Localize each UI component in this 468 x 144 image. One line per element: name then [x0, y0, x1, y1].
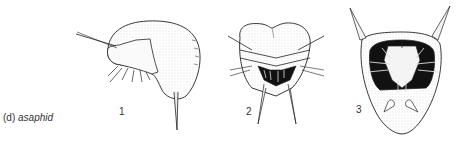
caption-taxon: asaphid — [18, 112, 53, 123]
figure-3-number: 3 — [356, 104, 362, 115]
figure-3-ventral-view — [320, 0, 468, 144]
figure-2-anterior-view — [200, 0, 330, 144]
caption-label: (d) — [3, 112, 15, 123]
figure-2-number: 2 — [246, 106, 252, 117]
figure-caption: (d) asaphid — [3, 112, 53, 123]
figure-1-lateral-view — [60, 0, 210, 144]
figure-1-number: 1 — [119, 106, 125, 117]
